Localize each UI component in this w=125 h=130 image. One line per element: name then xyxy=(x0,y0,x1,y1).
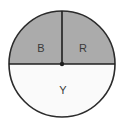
sector-label-b: B xyxy=(37,42,44,54)
center-point-dot xyxy=(60,62,64,66)
sector-diagram-figure: B R Y xyxy=(0,0,125,130)
sector-label-r: R xyxy=(79,42,87,54)
sector-label-y: Y xyxy=(59,84,67,96)
sector-diagram-canvas: B R Y xyxy=(0,0,125,130)
